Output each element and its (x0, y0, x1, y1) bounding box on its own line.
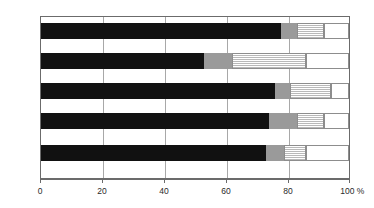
x-tick-20 (102, 179, 103, 183)
x-axis (40, 179, 350, 180)
bar-row-1 (41, 53, 349, 69)
x-tick-label-20: 20 (97, 186, 106, 196)
stacked-bar-chart: 神着 伊豆 伊ケ谷 阿古 坪田 0 20 40 60 80 100 % (0, 0, 374, 208)
bar-segment-hatched (297, 23, 325, 39)
bar-row-3 (41, 113, 349, 129)
bar-row-0 (41, 23, 349, 39)
x-tick-100 (349, 179, 350, 183)
x-tick-0 (40, 179, 41, 183)
bar-segment-white (306, 53, 349, 69)
bar-segment-hatched (232, 53, 306, 69)
x-tick-60 (226, 179, 227, 183)
x-tick-40 (164, 179, 165, 183)
bar-segment-hatched (297, 113, 325, 129)
bar-segment-black (41, 113, 269, 129)
bar-row-4 (41, 145, 349, 161)
bar-segment-white (331, 83, 349, 99)
bar-segment-black (41, 145, 266, 161)
bar-row-2 (41, 83, 349, 99)
x-tick-label-100: 100 % (340, 186, 364, 196)
x-tick-label-60: 60 (221, 186, 230, 196)
plot-area (40, 16, 350, 179)
x-tick-label-80: 80 (283, 186, 292, 196)
bar-segment-gray (266, 145, 284, 161)
bar-segment-gray (275, 83, 290, 99)
x-tick-label-40: 40 (159, 186, 168, 196)
bar-segment-black (41, 83, 275, 99)
bar-segment-white (324, 23, 349, 39)
bar-segment-gray (204, 53, 232, 69)
x-tick-label-0: 0 (38, 186, 43, 196)
bar-segment-white (324, 113, 349, 129)
bar-segment-gray (281, 23, 296, 39)
bar-segment-white (306, 145, 349, 161)
bar-segment-gray (269, 113, 297, 129)
bar-segment-black (41, 53, 204, 69)
bar-segment-hatched (284, 145, 306, 161)
bar-segment-black (41, 23, 281, 39)
bar-segment-hatched (290, 83, 330, 99)
x-tick-80 (288, 179, 289, 183)
